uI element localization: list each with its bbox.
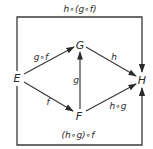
node-h: H [138,74,146,87]
edge-e-to-g [24,47,74,74]
node-g: G [76,39,85,52]
commutative-diagram: E G F H h∘(g∘f) (h∘g)∘f g∘f f g h h∘g [0,0,153,149]
label-top-composite: h∘(g∘f) [64,4,97,14]
node-f: F [76,110,83,123]
label-g-to-h: h [111,52,117,62]
label-e-to-g: g∘f [34,52,50,62]
node-e: E [14,72,21,85]
label-f-to-h: h∘g [109,101,126,111]
label-f-to-g: g [73,75,79,85]
label-bottom-composite: (h∘g)∘f [62,130,97,140]
label-e-to-f: f [46,97,51,107]
